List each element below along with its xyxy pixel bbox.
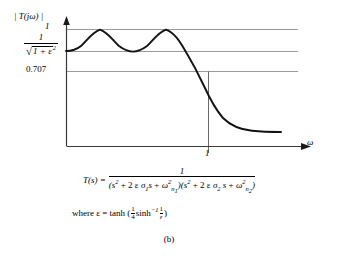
x-axis-label: ω xyxy=(307,137,313,147)
radicand-text: 1 + ε xyxy=(32,46,53,56)
radicand-exponent: 2 xyxy=(53,44,56,51)
fraction-denominator: √1 + ε2 xyxy=(18,44,64,57)
y-tick-label-half-power: 0.707 xyxy=(26,64,46,74)
x-tick-label-unity: 1 xyxy=(205,148,210,158)
equation-denominator: (s2 + 2 ε σ1s + ω2n1)(s2 + 2 ε σ2 s + ω2… xyxy=(109,177,255,194)
where-clause: where ε = tanh (14sinh−11ε) xyxy=(72,206,167,222)
equation-row: T(s) = 1 (s2 + 2 ε σ1s + ω2n1)(s2 + 2 ε … xyxy=(83,166,255,194)
where-suffix: ) xyxy=(164,208,167,218)
quarter-denominator: 4 xyxy=(131,213,135,221)
fraction-numerator: 1 xyxy=(18,33,64,43)
y-tick-label-unity: 1 xyxy=(45,21,50,31)
equation-numerator: 1 xyxy=(109,166,255,176)
equation-lhs: T(s) = xyxy=(83,175,109,185)
y-tick-label-ripple-min: 1 √1 + ε2 xyxy=(18,33,64,57)
sinh-exponent: −1 xyxy=(151,206,159,213)
figure-container: | T(jω) | 1 1 √1 + ε2 0.707 1 ω T(s) = 1… xyxy=(0,0,338,262)
inverse-epsilon-fraction: 1ε xyxy=(160,206,164,222)
figure-caption: (b) xyxy=(0,234,338,244)
quarter-fraction: 14 xyxy=(131,206,135,222)
y-axis-label: | T(jω) | xyxy=(14,11,43,21)
magnitude-curve xyxy=(66,30,281,132)
inverse-epsilon-denominator: ε xyxy=(160,213,164,221)
y-axis-arrowhead xyxy=(63,16,70,25)
transfer-function-equation: T(s) = 1 (s2 + 2 ε σ1s + ω2n1)(s2 + 2 ε … xyxy=(0,166,338,194)
where-prefix: where ε = tanh ( xyxy=(72,208,130,218)
quarter-numerator: 1 xyxy=(131,206,135,213)
inverse-epsilon-numerator: 1 xyxy=(160,206,164,213)
equation-fraction: 1 (s2 + 2 ε σ1s + ω2n1)(s2 + 2 ε σ2 s + … xyxy=(109,166,255,194)
sinh-function: sinh xyxy=(136,208,151,218)
